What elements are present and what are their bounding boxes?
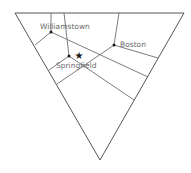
williamstown-label: Williamstown xyxy=(40,22,90,31)
springfield-edge-up xyxy=(64,13,69,56)
boston-edge-up xyxy=(114,13,119,45)
boston-node xyxy=(113,44,116,47)
boston-label: Boston xyxy=(120,40,146,49)
springfield-label: Springfield xyxy=(56,61,97,70)
williamstown-edge-left xyxy=(35,32,51,45)
springfield-node xyxy=(68,55,71,58)
triangle-boundary xyxy=(15,13,184,160)
star-icon: ★ xyxy=(75,50,84,61)
ternary-diagram: Williamstown Springfield Boston ★ xyxy=(0,0,191,173)
